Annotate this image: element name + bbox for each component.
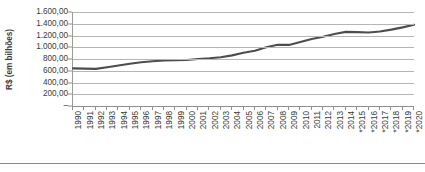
y-axis-tick-label: 1.400,00 <box>36 20 68 28</box>
x-axis-tick <box>117 106 118 110</box>
x-axis-tick <box>163 106 164 110</box>
y-axis-tick <box>68 94 72 95</box>
y-axis-tick-label: 400,00 <box>43 78 68 86</box>
x-axis-tick <box>208 106 209 110</box>
x-axis-tick-labels: 1990199119921993199419951996199719981999… <box>72 111 413 157</box>
x-axis-tick <box>368 106 369 110</box>
x-axis-tick-label: 2006 <box>257 111 265 129</box>
x-axis-tick-label: 2010 <box>303 111 311 129</box>
x-axis-tick <box>277 106 278 110</box>
x-axis-tick-label: 2013 <box>337 111 345 129</box>
y-axis-tick <box>68 82 72 83</box>
y-axis-tick <box>68 47 72 48</box>
x-axis-tick-label: 2000 <box>189 111 197 129</box>
x-axis-tick-label: *2015 <box>359 111 367 132</box>
y-axis-tick-label: 1.000,00 <box>36 43 68 51</box>
x-axis-tick-label: 1997 <box>155 111 163 129</box>
x-axis-tick <box>413 106 414 110</box>
x-axis-tick <box>254 106 255 110</box>
x-axis-tick <box>140 106 141 110</box>
y-axis-tick <box>68 70 72 71</box>
x-axis-tick-label: 2009 <box>291 111 299 129</box>
x-axis-tick <box>186 106 187 110</box>
gridline <box>73 83 414 84</box>
x-axis-tick-label: *2020 <box>416 111 424 132</box>
x-axis-tick <box>333 106 334 110</box>
x-axis-tick <box>174 106 175 110</box>
x-axis-tick-label: 1999 <box>178 111 186 129</box>
x-axis-tick <box>129 106 130 110</box>
x-axis-tick <box>95 106 96 110</box>
gridline <box>73 59 414 60</box>
x-axis-tick-label: *2019 <box>405 111 413 132</box>
gridline <box>73 71 414 72</box>
x-axis-tick-label: *2017 <box>382 111 390 132</box>
y-axis-tick <box>68 106 72 107</box>
y-axis-tick <box>68 23 72 24</box>
y-axis-tick-label: 1.600,00 <box>36 8 68 16</box>
x-axis-tick <box>299 106 300 110</box>
x-axis-tick-label: 1995 <box>132 111 140 129</box>
x-axis-tick <box>106 106 107 110</box>
x-axis-tick-label: 2003 <box>223 111 231 129</box>
plot-area <box>72 12 414 106</box>
gridline <box>73 94 414 95</box>
x-axis-tick <box>356 106 357 110</box>
x-axis-tick <box>265 106 266 110</box>
x-axis-tick <box>152 106 153 110</box>
x-axis-tick-label: 2001 <box>200 111 208 129</box>
gridline <box>73 47 414 48</box>
y-axis-tick-label: 1.200,00 <box>36 31 68 39</box>
x-axis-tick-label: 2004 <box>234 111 242 129</box>
x-axis-tick-label: 2002 <box>212 111 220 129</box>
x-axis-tick-label: 1990 <box>75 111 83 129</box>
line-chart: R$ (em bilhões) –200,00400,00600,00800,0… <box>0 0 425 172</box>
x-axis-tick-label: 1992 <box>98 111 106 129</box>
x-axis-tick-label: 1991 <box>87 111 95 129</box>
x-axis-tick <box>322 106 323 110</box>
x-axis-tick-label: 2005 <box>246 111 254 129</box>
x-axis-tick <box>72 106 73 110</box>
x-axis-tick <box>311 106 312 110</box>
y-axis-title-label: R$ (em bilhões) <box>5 29 14 90</box>
x-axis-tick <box>220 106 221 110</box>
y-axis-tick-labels: –200,00400,00600,00800,001.000,001.200,0… <box>16 0 70 118</box>
x-axis-tick-label: *2018 <box>393 111 401 132</box>
y-axis-tick-label: 200,00 <box>43 90 68 98</box>
x-axis-tick <box>390 106 391 110</box>
gridline <box>73 12 414 13</box>
x-axis-tick-label: *2016 <box>371 111 379 132</box>
y-axis-tick-label: 800,00 <box>43 55 68 63</box>
gridline <box>73 36 414 37</box>
y-axis-tick <box>68 59 72 60</box>
x-axis-tick-label: 2008 <box>280 111 288 129</box>
x-axis-tick <box>231 106 232 110</box>
x-axis-tick <box>243 106 244 110</box>
y-axis-tick <box>68 12 72 13</box>
x-axis-tick <box>197 106 198 110</box>
x-axis-tick-label: 1998 <box>166 111 174 129</box>
x-axis-tick-label: 1996 <box>143 111 151 129</box>
x-axis-tick-label: 1994 <box>121 111 129 129</box>
x-axis-tick-label: 2011 <box>314 111 322 129</box>
x-axis-tick-label: 1993 <box>109 111 117 129</box>
x-axis-tick-label: 2014 <box>348 111 356 129</box>
y-axis-tick-label: 600,00 <box>43 67 68 75</box>
x-axis-tick <box>402 106 403 110</box>
bottom-divider <box>0 163 425 164</box>
x-axis-tick-label: 2007 <box>268 111 276 129</box>
x-axis-tick <box>288 106 289 110</box>
x-axis-tick-label: 2012 <box>325 111 333 129</box>
x-axis-tick <box>379 106 380 110</box>
x-axis-tick <box>83 106 84 110</box>
gridline <box>73 24 414 25</box>
x-axis-tick <box>345 106 346 110</box>
y-axis-tick <box>68 35 72 36</box>
